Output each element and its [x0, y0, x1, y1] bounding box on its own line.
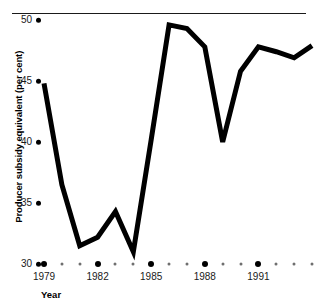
- y-axis-tick-label: 50: [18, 15, 32, 25]
- x-axis-tick-label-1988: 1988: [194, 272, 216, 282]
- x-axis-tick-dot-1993: [293, 263, 296, 266]
- x-axis-title: Year: [41, 290, 61, 300]
- y-axis-tick-30: 30: [18, 259, 43, 269]
- y-axis-tick-40: 40: [18, 137, 43, 147]
- top-divider-rule: [12, 13, 306, 14]
- series-polyline: [44, 25, 312, 252]
- y-axis-tick-dot-icon: [36, 201, 41, 206]
- x-axis-tick-dot-1987: [185, 263, 188, 266]
- x-axis-tick-dot-1986: [168, 263, 171, 266]
- x-axis-tick-dot-1982: [95, 261, 101, 267]
- x-axis-tick-dot-1984: [132, 263, 135, 266]
- x-axis-tick-dot-1991: [255, 261, 261, 267]
- x-axis-tick-label-1991: 1991: [247, 272, 269, 282]
- y-axis-tick-label: 40: [18, 137, 32, 147]
- x-axis-tick-dot-1981: [78, 263, 81, 266]
- y-axis-tick-dot-icon: [36, 140, 41, 145]
- y-axis-tick-35: 35: [18, 198, 43, 208]
- chart-figure: Producer subsidy equivalent (per cent) 3…: [0, 0, 318, 305]
- x-axis-tick-dot-1983: [114, 263, 117, 266]
- y-axis-tick-label: 35: [18, 198, 32, 208]
- x-axis-tick-dot-1992: [275, 263, 278, 266]
- y-axis-tick-50: 50: [18, 15, 43, 25]
- x-axis-tick-dot-1988: [202, 261, 208, 267]
- y-axis-tick-dot-icon: [36, 79, 41, 84]
- x-axis-tick-label-1985: 1985: [140, 272, 162, 282]
- y-axis-tick-dot-icon: [36, 18, 41, 23]
- x-axis-tick-dot-1989: [221, 263, 224, 266]
- y-axis-tick-label: 45: [18, 76, 32, 86]
- x-axis-tick-dot-1980: [60, 263, 63, 266]
- y-axis-tick-45: 45: [18, 76, 43, 86]
- x-axis-tick-dot-1979: [41, 261, 47, 267]
- y-axis-tick-label: 30: [18, 259, 32, 269]
- x-axis-tick-dot-1990: [239, 263, 242, 266]
- x-axis-tick-label-1979: 1979: [33, 272, 55, 282]
- x-axis-tick-dot-1994: [311, 263, 314, 266]
- line-series: [44, 20, 312, 264]
- plot-area: 3035404550 19791982198519881991: [44, 20, 312, 264]
- x-axis-tick-label-1982: 1982: [86, 272, 108, 282]
- x-axis-tick-dot-1985: [148, 261, 154, 267]
